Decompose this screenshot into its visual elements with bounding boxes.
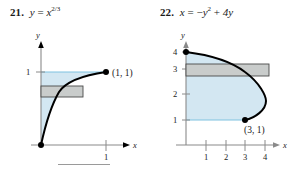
- figure-22: 22. x = −y2 + 4y: [150, 0, 299, 173]
- y-axis-arrow-22: [183, 41, 189, 48]
- point-label-1-1-21: (1, 1): [112, 68, 133, 79]
- x-tick-label-2-22: 2: [224, 152, 228, 162]
- point-origin-21: [38, 142, 44, 148]
- x-axis-arrow-21: [123, 142, 130, 148]
- x-axis-label-22: x: [282, 140, 287, 150]
- plot-22: y x 4 3 2 1 1 2 3 4 (3, 1): [150, 0, 299, 173]
- y-axis-arrow-21: [38, 41, 44, 48]
- x-tick-label-1-22: 1: [204, 152, 208, 162]
- y-axis-label-21: y: [35, 30, 40, 40]
- page-rule-artifact: [58, 164, 110, 165]
- x-tick-label-1-21: 1: [104, 152, 108, 162]
- point-3-1-22: [242, 117, 248, 123]
- representative-rectangle-22: [186, 64, 269, 76]
- y-axis-label-22: y: [180, 30, 185, 40]
- figure-21: 21. y = x2/3 y x 1 1 (1, 1): [0, 0, 149, 173]
- y-tick-label-1-22: 1: [173, 115, 177, 125]
- x-tick-label-4-22: 4: [263, 152, 268, 162]
- x-axis-arrow-22: [273, 142, 280, 148]
- x-axis-label-21: x: [132, 140, 137, 150]
- point-label-3-1-22: (3, 1): [244, 125, 265, 136]
- y-tick-label-2-22: 2: [173, 89, 177, 99]
- y-tick-label-1-21: 1: [26, 67, 30, 77]
- y-tick-label-4-22: 4: [173, 47, 178, 57]
- x-tick-label-3-22: 3: [243, 152, 247, 162]
- point-1-1-21: [103, 69, 109, 75]
- plot-21: y x 1 1 (1, 1): [0, 0, 149, 173]
- y-tick-label-3-22: 3: [173, 64, 177, 74]
- point-0-4-22: [183, 49, 189, 55]
